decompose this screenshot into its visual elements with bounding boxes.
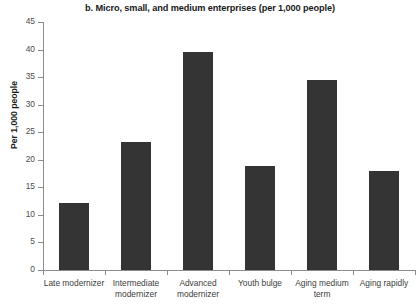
y-tick-label: 45 <box>26 16 35 26</box>
x-axis-label: Intermediate modernizer <box>105 278 167 299</box>
x-axis-label: Aging rapidly <box>353 278 415 289</box>
bar <box>369 171 399 270</box>
y-axis-title: Per 1,000 people <box>9 50 19 180</box>
y-tick-label: 10 <box>26 209 35 219</box>
x-tick <box>415 270 416 275</box>
y-axis-line <box>43 22 44 271</box>
x-axis-label: Late modernizer <box>43 278 105 289</box>
bar <box>59 203 89 270</box>
x-tick <box>105 270 106 275</box>
x-axis-label: Youth bulge <box>229 278 291 289</box>
y-tick: 25 <box>38 132 43 133</box>
x-tick <box>353 270 354 275</box>
y-tick: 40 <box>38 50 43 51</box>
y-tick: 15 <box>38 187 43 188</box>
x-axis-label: Aging medium term <box>291 278 353 299</box>
y-tick: 45 <box>38 22 43 23</box>
y-tick-label: 30 <box>26 99 35 109</box>
bar <box>245 166 275 270</box>
y-tick: 30 <box>38 105 43 106</box>
y-tick-label: 0 <box>30 264 35 274</box>
bar <box>307 80 337 270</box>
y-tick-label: 15 <box>26 181 35 191</box>
x-tick <box>43 270 44 275</box>
chart-title: b. Micro, small, and medium enterprises … <box>0 3 420 13</box>
chart-figure: b. Micro, small, and medium enterprises … <box>0 0 420 304</box>
y-tick: 5 <box>38 242 43 243</box>
y-tick: 10 <box>38 215 43 216</box>
y-tick-label: 40 <box>26 44 35 54</box>
plot-area: 051015202530354045 <box>43 22 415 270</box>
bar <box>121 142 151 270</box>
bar <box>183 52 213 270</box>
x-axis-label: Advanced modernizer <box>167 278 229 299</box>
x-tick <box>167 270 168 275</box>
y-tick: 35 <box>38 77 43 78</box>
y-tick-label: 35 <box>26 71 35 81</box>
y-tick: 20 <box>38 160 43 161</box>
y-tick-label: 5 <box>30 236 35 246</box>
y-tick-label: 20 <box>26 154 35 164</box>
y-tick-label: 25 <box>26 126 35 136</box>
x-tick <box>291 270 292 275</box>
x-tick <box>229 270 230 275</box>
